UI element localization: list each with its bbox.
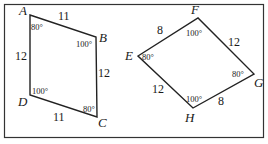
vertex-label-e: E (124, 48, 133, 63)
vertex-label-b: B (99, 30, 107, 45)
vertex-label-d: D (17, 94, 28, 109)
angle-label-a: 80° (31, 22, 43, 32)
angle-label-c: 80° (83, 104, 95, 114)
side-length-fg: 12 (228, 35, 240, 49)
vertex-label-g: G (254, 75, 264, 90)
vertex-label-a: A (18, 3, 27, 18)
angle-label-d: 100° (32, 86, 48, 96)
vertex-label-c: C (98, 115, 107, 130)
vertex-label-h: H (184, 110, 195, 125)
angle-label-b: 100° (76, 39, 92, 49)
angle-label-e: 80° (142, 52, 154, 62)
side-length-ab: 11 (58, 9, 70, 23)
side-length-bc: 12 (98, 66, 110, 80)
quadrilaterals-figure: A B C D 11 12 11 12 80° 100° 80° 100° E … (0, 0, 268, 144)
angle-label-g: 80° (232, 69, 244, 79)
vertex-label-f: F (190, 2, 200, 17)
side-length-gh: 8 (218, 94, 224, 108)
side-length-he: 12 (152, 82, 164, 96)
angle-label-h: 100° (186, 94, 202, 104)
angle-label-f: 100° (186, 28, 202, 38)
figure-frame (5, 5, 264, 138)
side-length-ef: 8 (157, 23, 163, 37)
side-length-cd: 11 (53, 110, 65, 124)
side-length-da: 12 (15, 49, 27, 63)
